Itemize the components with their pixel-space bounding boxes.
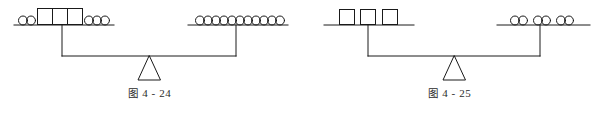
- fulcrum-triangle: [443, 56, 465, 80]
- figure-4-24: 图 4 - 24: [0, 0, 299, 113]
- weight-box: [53, 9, 68, 25]
- weight-box: [361, 10, 376, 25]
- balance-scale-diagram-4-24: [0, 0, 299, 85]
- caption-label: 图: [128, 87, 139, 99]
- fulcrum-triangle: [138, 56, 160, 80]
- caption-label: 图: [428, 87, 439, 99]
- illustration-canvas: 图 4 - 24: [0, 0, 599, 113]
- caption-number: 4 - 25: [442, 87, 471, 99]
- figure-caption-4-25: 图 4 - 25: [300, 85, 599, 100]
- weight-box: [68, 9, 83, 25]
- weight-box: [38, 9, 53, 25]
- right-pan-circle-pair-1: [511, 16, 528, 25]
- balance-scale-diagram-4-25: [300, 0, 599, 85]
- figure-4-25: 图 4 - 25: [300, 0, 599, 113]
- figure-caption-4-24: 图 4 - 24: [0, 85, 299, 100]
- weight-box: [340, 10, 355, 25]
- right-pan-circle-pair-3: [557, 16, 574, 25]
- right-pan-circle-group: [196, 16, 285, 25]
- caption-number: 4 - 24: [142, 87, 171, 99]
- left-pan-circle-group-b: [85, 16, 110, 25]
- right-pan-circle-pair-2: [534, 16, 551, 25]
- left-pan-box-group: [340, 10, 398, 25]
- weight-box: [383, 10, 398, 25]
- left-pan-circle-group-a: [19, 16, 36, 25]
- left-pan-box-group: [38, 9, 83, 25]
